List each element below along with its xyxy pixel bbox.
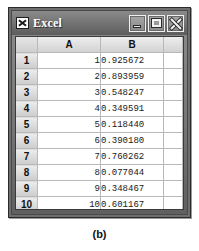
row-header[interactable]: 7 [16,149,38,165]
spreadsheet-grid[interactable]: A B 1 1 0.925672 2 [15,36,184,210]
cell-c3[interactable] [164,85,183,101]
table-row: 1 1 0.925672 [16,53,183,69]
cell-b2[interactable]: 0.893959 [101,69,164,85]
cell-a2[interactable]: 2 [38,69,101,85]
table-row: 9 9 0.348467 [16,181,183,197]
table-row: 4 4 0.349591 [16,101,183,117]
row-header[interactable]: 2 [16,69,38,85]
cell-c6[interactable] [164,133,183,149]
row-header[interactable]: 3 [16,85,38,101]
cell-c5[interactable] [164,117,183,133]
cell-c1[interactable] [164,53,183,69]
table-row: 10 10 0.601167 [16,197,183,211]
cell-b4[interactable]: 0.349591 [101,101,164,117]
cell-table: A B 1 1 0.925672 2 [16,37,183,210]
cell-b9[interactable]: 0.348467 [101,181,164,197]
row-header[interactable]: 6 [16,133,38,149]
maximize-button[interactable] [148,15,165,32]
cell-c10[interactable] [164,197,183,211]
cell-b1[interactable]: 0.925672 [101,53,164,69]
cell-c7[interactable] [164,149,183,165]
minimize-button[interactable] [129,15,146,32]
figure-panel: Excel [0,0,199,251]
table-row: 8 8 0.077044 [16,165,183,181]
table-row: 2 2 0.893959 [16,69,183,85]
row-header[interactable]: 4 [16,101,38,117]
cell-b8[interactable]: 0.077044 [101,165,164,181]
cell-a7[interactable]: 7 [38,149,101,165]
table-row: 3 3 0.548247 [16,85,183,101]
row-header[interactable]: 5 [16,117,38,133]
cell-a10[interactable]: 10 [38,197,101,211]
cell-a8[interactable]: 8 [38,165,101,181]
cell-c4[interactable] [164,101,183,117]
cell-a5[interactable]: 5 [38,117,101,133]
cell-a6[interactable]: 6 [38,133,101,149]
excel-icon [16,17,29,29]
column-header-b[interactable]: B [101,37,164,53]
table-row: 6 6 0.390180 [16,133,183,149]
excel-window: Excel [8,7,191,218]
cell-c2[interactable] [164,69,183,85]
row-header[interactable]: 1 [16,53,38,69]
maximize-icon [152,19,161,27]
table-row: 5 5 0.118440 [16,117,183,133]
minimize-icon [133,25,141,28]
cell-b7[interactable]: 0.760262 [101,149,164,165]
cell-b3[interactable]: 0.548247 [101,85,164,101]
column-header-row: A B [16,37,183,53]
cell-a1[interactable]: 1 [38,53,101,69]
cell-c8[interactable] [164,165,183,181]
window-controls [129,15,184,32]
cell-a9[interactable]: 9 [38,181,101,197]
cell-b6[interactable]: 0.390180 [101,133,164,149]
cell-a3[interactable]: 3 [38,85,101,101]
select-all-corner[interactable] [16,37,38,53]
close-button[interactable] [167,15,184,32]
title-bar[interactable]: Excel [12,11,187,35]
cell-a4[interactable]: 4 [38,101,101,117]
row-header[interactable]: 8 [16,165,38,181]
row-header[interactable]: 10 [16,197,38,211]
cell-c9[interactable] [164,181,183,197]
cell-body: 1 1 0.925672 2 2 0.893959 3 [16,53,183,211]
figure-caption: (b) [0,228,199,240]
row-header[interactable]: 9 [16,181,38,197]
column-header-c[interactable] [164,37,183,53]
cell-b5[interactable]: 0.118440 [101,117,164,133]
cell-b10[interactable]: 0.601167 [101,197,164,211]
table-row: 7 7 0.760262 [16,149,183,165]
column-header-a[interactable]: A [38,37,101,53]
window-inner-frame: Excel [11,10,188,215]
window-title: Excel [33,17,129,30]
